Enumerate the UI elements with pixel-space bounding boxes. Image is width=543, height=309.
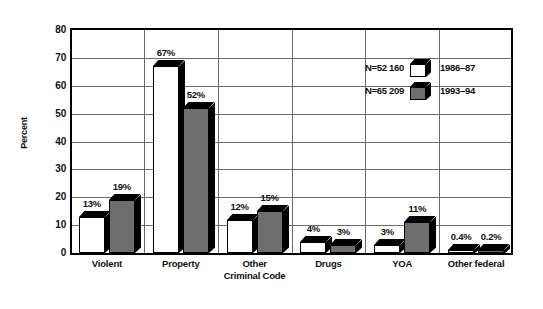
x-axis-label-line2: Criminal Code — [218, 270, 292, 282]
x-axis-label-line1: Drugs — [315, 258, 341, 269]
y-axis-tick-20: 20 — [36, 192, 66, 202]
x-axis-label-line1: Property — [162, 258, 199, 269]
x-axis-label-Property: Property — [144, 258, 218, 270]
category-separator — [144, 30, 145, 253]
x-axis-label-Drugs: Drugs — [292, 258, 366, 270]
x-axis-labels: ViolentPropertyOtherCriminal CodeDrugsYO… — [70, 258, 513, 304]
x-axis-label-line1: Other federal — [448, 258, 505, 269]
legend-row-1993–94: N=65 2091993–94 — [348, 81, 498, 101]
y-axis-title: Percent — [19, 103, 29, 163]
x-axis-label-line1: Other — [242, 258, 266, 269]
y-axis-tick-70: 70 — [36, 53, 66, 63]
y-axis-tick-40: 40 — [36, 137, 66, 147]
y-axis-tick-80: 80 — [36, 25, 66, 35]
y-axis-tick-10: 10 — [36, 220, 66, 230]
x-axis-label-line1: Violent — [92, 258, 122, 269]
swatch-front-face — [410, 87, 426, 100]
y-axis-tick-30: 30 — [36, 164, 66, 174]
x-axis-label-Violent: Violent — [70, 258, 144, 270]
gray-cube-icon — [410, 82, 430, 98]
legend-year-label: 1986–87 — [440, 62, 475, 73]
bar-chart: Percent 80706050403020100 13%67%12%4%3%0… — [0, 0, 543, 309]
legend-row-1986–87: N=52 1601986–87 — [348, 58, 498, 78]
y-axis-tick-60: 60 — [36, 81, 66, 91]
white-cube-icon — [410, 59, 430, 75]
x-axis-label-Other federal: Other federal — [439, 258, 513, 270]
swatch-front-face — [410, 64, 426, 77]
x-axis-label-Other Criminal Code: OtherCriminal Code — [218, 258, 292, 282]
x-axis-label-YOA: YOA — [365, 258, 439, 270]
legend-n-label: N=65 209 — [348, 85, 404, 96]
x-axis-label-line1: YOA — [392, 258, 412, 269]
y-axis-tick-0: 0 — [36, 248, 66, 258]
y-axis-tick-labels: 80706050403020100 — [32, 28, 66, 255]
y-axis-tick-50: 50 — [36, 109, 66, 119]
category-separator — [292, 30, 293, 253]
chart-legend: N=52 1601986–87N=65 2091993–94 — [348, 58, 498, 104]
category-separator — [218, 30, 219, 253]
legend-year-label: 1993–94 — [440, 85, 475, 96]
legend-n-label: N=52 160 — [348, 62, 404, 73]
